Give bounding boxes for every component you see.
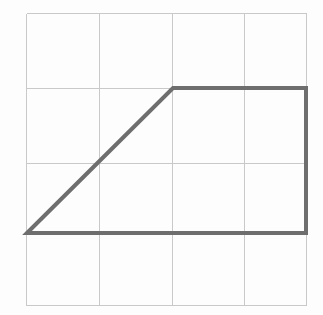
trapezoid-shape (27, 88, 306, 233)
grid-vertical-lines (27, 14, 307, 306)
grid-horizontal-lines (27, 14, 307, 306)
figure-canvas: Trapezoid drawn on a square grid (0, 0, 323, 315)
geometry-figure: Trapezoid drawn on a square grid (0, 0, 323, 315)
